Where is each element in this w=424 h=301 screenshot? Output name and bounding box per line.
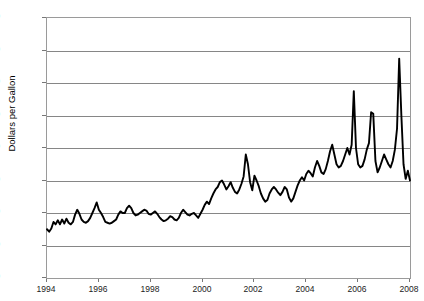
series-line-natural-gas-price [47,18,410,278]
x-tick-label-1996: 1996 [76,284,120,294]
x-tick-label-2008: 2008 [387,284,424,294]
chart-title: Natural Gas Wellhead Price [0,0,424,1]
plot-area [46,17,411,279]
series-polyline [47,59,410,232]
chart-container: Natural Gas Wellhead Price Dollars per G… [0,0,424,301]
x-tick-label-2000: 2000 [180,284,224,294]
x-tick-label-1994: 1994 [24,284,68,294]
x-tick-label-2002: 2002 [231,284,275,294]
x-tick-label-1998: 1998 [128,284,172,294]
x-tick-label-2004: 2004 [283,284,327,294]
y-axis-title: Dollars per Gallon [6,59,17,169]
x-tick-label-2006: 2006 [335,284,379,294]
